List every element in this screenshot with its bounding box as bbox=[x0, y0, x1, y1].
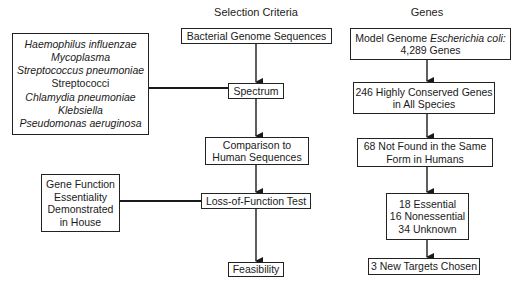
model-genome-prefix: Model Genome bbox=[355, 32, 430, 44]
spectrum-label: Spectrum bbox=[234, 85, 279, 98]
gene-function-line: Essentiality bbox=[54, 191, 107, 204]
new-targets-box: 3 New Targets Chosen bbox=[368, 258, 480, 275]
species-item: Streptococcus pneumoniae bbox=[17, 64, 144, 77]
conserved-genes-box: 246 Highly Conserved Genes in All Specie… bbox=[353, 82, 495, 114]
comparison-box: Comparison to Human Sequences bbox=[205, 137, 309, 165]
selection-criteria-header: Selection Criteria bbox=[196, 6, 316, 18]
gene-function-box: Gene Function Essentiality Demonstrated … bbox=[41, 174, 120, 232]
comparison-line: Comparison to bbox=[223, 139, 291, 152]
species-item: Haemophilus influenzae bbox=[24, 38, 136, 51]
breakdown-line: 16 Nonessential bbox=[390, 210, 465, 223]
species-item: Streptococci bbox=[52, 77, 110, 90]
species-item: Pseudomonas aeruginosa bbox=[19, 117, 141, 130]
spectrum-box: Spectrum bbox=[228, 83, 284, 99]
model-genome-line: Model Genome Escherichia coli: bbox=[355, 32, 506, 45]
bacterial-genome-label: Bacterial Genome Sequences bbox=[187, 30, 327, 43]
loss-of-function-box: Loss-of-Function Test bbox=[201, 193, 311, 209]
bacterial-genome-box: Bacterial Genome Sequences bbox=[181, 28, 332, 44]
gene-function-line: in House bbox=[60, 216, 101, 229]
conserved-line: 246 Highly Conserved Genes bbox=[355, 86, 492, 99]
breakdown-line: 34 Unknown bbox=[398, 223, 456, 236]
gene-function-line: Demonstrated bbox=[48, 203, 114, 216]
feasibility-label: Feasibility bbox=[233, 263, 280, 276]
not-found-box: 68 Not Found in the Same Form in Humans bbox=[357, 138, 493, 167]
organism-name: Escherichia coli: bbox=[430, 32, 506, 44]
genes-header: Genes bbox=[395, 6, 459, 18]
conserved-line: in All Species bbox=[393, 98, 455, 111]
gene-count: 4,289 Genes bbox=[400, 44, 460, 57]
species-item: Mycoplasma bbox=[51, 51, 110, 64]
comparison-line: Human Sequences bbox=[212, 151, 301, 164]
species-item: Chlamydia pneumoniae bbox=[25, 91, 135, 104]
not-found-line: 68 Not Found in the Same bbox=[364, 140, 487, 153]
loss-of-function-label: Loss-of-Function Test bbox=[206, 195, 306, 208]
species-item: Klebsiella bbox=[58, 104, 103, 117]
breakdown-line: 18 Essential bbox=[399, 198, 456, 211]
gene-function-line: Gene Function bbox=[46, 178, 115, 191]
species-list-box: Haemophilus influenzae Mycoplasma Strept… bbox=[12, 33, 149, 135]
feasibility-box: Feasibility bbox=[228, 262, 284, 277]
model-genome-box: Model Genome Escherichia coli: 4,289 Gen… bbox=[350, 28, 511, 60]
not-found-line: Form in Humans bbox=[386, 153, 464, 166]
essentiality-breakdown-box: 18 Essential 16 Nonessential 34 Unknown bbox=[386, 193, 469, 240]
new-targets-label: 3 New Targets Chosen bbox=[371, 260, 477, 273]
